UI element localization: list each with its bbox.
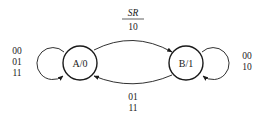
label-b-a-line-1: 01 bbox=[128, 92, 138, 102]
label-b-a-line-2: 11 bbox=[128, 103, 137, 113]
self-loop-b-label: 00 10 bbox=[242, 51, 252, 72]
label-b-b-line-2: 10 bbox=[242, 62, 252, 72]
self-loop-a bbox=[37, 48, 64, 80]
state-a-label: A/0 bbox=[73, 58, 88, 69]
transition-b-to-a-label: 01 11 bbox=[128, 92, 138, 113]
self-loop-a-label: 00 01 11 bbox=[12, 46, 22, 78]
state-diagram: A/0 B/1 SR 10 00 01 11 00 10 01 11 bbox=[0, 0, 265, 122]
self-loop-b bbox=[202, 48, 229, 80]
state-b: B/1 bbox=[169, 46, 203, 80]
state-diagram-canvas: A/0 B/1 SR 10 00 01 11 00 10 01 11 bbox=[0, 0, 265, 122]
label-a-to-b-line-1: 10 bbox=[128, 22, 138, 32]
state-a: A/0 bbox=[63, 46, 97, 80]
transition-a-to-b-label: SR 10 bbox=[122, 8, 144, 32]
label-a-a-line-2: 01 bbox=[12, 57, 22, 67]
label-a-a-line-1: 00 bbox=[12, 46, 22, 56]
label-b-b-line-1: 00 bbox=[242, 51, 252, 61]
transition-a-to-b bbox=[94, 40, 172, 52]
transition-b-to-a bbox=[94, 75, 172, 84]
state-b-label: B/1 bbox=[179, 58, 193, 69]
label-a-a-line-3: 11 bbox=[12, 68, 21, 78]
input-header-sr: SR bbox=[128, 8, 139, 18]
